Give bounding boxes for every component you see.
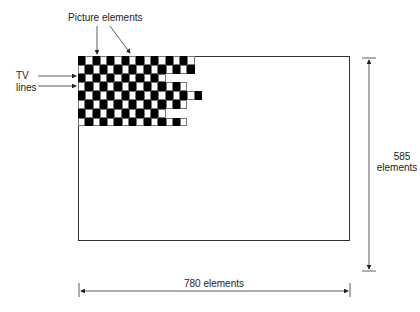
horizontal-dimension-label: 780 elements [160,278,268,289]
picture-elements-label: Picture elements [68,12,142,23]
tv-lines-label-2: lines [16,82,37,93]
picture-element-arrow-2 [110,26,130,53]
arrows-layer [0,0,420,312]
tv-lines-label-1: TV [16,70,29,81]
vertical-count-label: 585 [384,151,420,162]
vertical-unit-label: elements [374,162,420,173]
